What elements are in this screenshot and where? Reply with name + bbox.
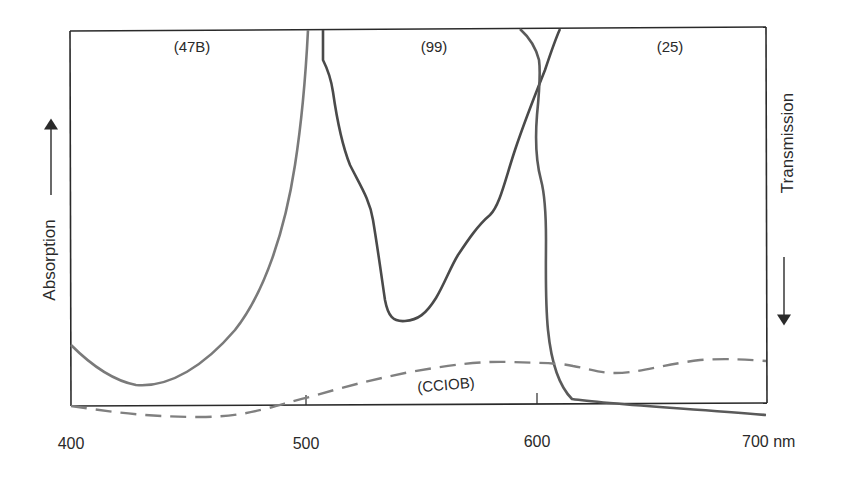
- plot-frame: [70, 27, 767, 406]
- curve-47b: [71, 30, 308, 385]
- label-47b: (47B): [174, 38, 211, 55]
- x-tick-700: 700 nm: [742, 433, 795, 450]
- absorption-transmission-chart: (47B) (99) (25) (CCIOB) 400 500 600 700 …: [0, 0, 848, 478]
- x-tick-500: 500: [293, 435, 320, 452]
- label-25: (25): [657, 38, 684, 55]
- transmission-label: Transmission: [778, 93, 797, 193]
- x-tick-400: 400: [58, 435, 85, 452]
- absorption-label: Absorption: [40, 219, 59, 300]
- curve-25: [520, 29, 766, 415]
- curve-99: [323, 29, 560, 321]
- label-99: (99): [421, 38, 448, 55]
- y-axis-right-label: Transmission: [778, 93, 797, 320]
- y-axis-left-label: Absorption: [40, 124, 59, 301]
- label-cciob: (CCIOB): [417, 374, 476, 396]
- x-tick-600: 600: [524, 433, 551, 450]
